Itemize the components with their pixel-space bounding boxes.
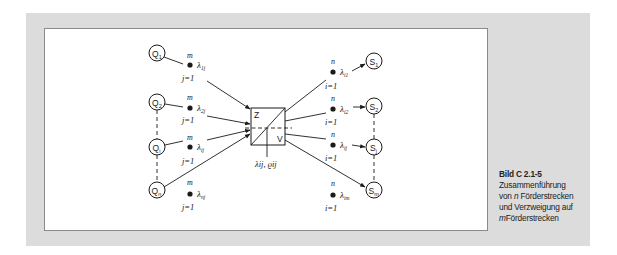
merge-label: Z	[254, 110, 259, 120]
caption-line-2: von n Förderstrecken	[499, 191, 589, 202]
source-node-qn: Qn	[149, 182, 165, 198]
svg-text:λij: λij	[196, 142, 204, 153]
svg-text:λij: λij	[339, 140, 347, 151]
source-to-sum-links	[164, 57, 183, 145]
svg-text:λnj: λnj	[196, 189, 206, 200]
sink-sum-2: n λi2 i=1	[325, 94, 348, 127]
sink-sum-m: n λim i=1	[325, 179, 349, 213]
caption-line-3: und Verzweigung auf	[499, 202, 589, 213]
svg-text:n: n	[331, 130, 335, 139]
figure-caption: Bild C 2.1-5 Zusammenführung von n Förde…	[499, 169, 589, 224]
caption-variable: m	[499, 213, 506, 223]
inflow-arrows	[164, 81, 250, 187]
svg-text:i=1: i=1	[325, 81, 337, 91]
sink-node-s2: S2	[366, 98, 382, 114]
caption-title: Bild C 2.1-5	[499, 169, 589, 180]
sink-node-s1: S1	[366, 53, 382, 69]
sink-sum-j: n λij i=1	[325, 130, 347, 163]
source-sum-n: m λnj j=1	[181, 178, 206, 212]
sink-node-sj: Sj	[366, 139, 382, 155]
svg-text:n: n	[331, 179, 335, 188]
caption-line-4: mFörderstrecken	[499, 213, 589, 224]
svg-text:m: m	[187, 133, 193, 142]
svg-text:i=1: i=1	[325, 203, 337, 213]
svg-text:λim: λim	[339, 190, 349, 201]
svg-text:λi2: λi2	[339, 104, 348, 115]
svg-text:m: m	[187, 51, 193, 60]
svg-text:i=1: i=1	[325, 117, 337, 127]
caption-text: Förderstrecken	[506, 213, 559, 223]
sink-sum-1: n λi1 i=1	[325, 57, 348, 91]
throughput-label: λij, ϱij	[254, 159, 277, 169]
svg-text:j=1: j=1	[181, 202, 194, 212]
source-node-q2: Q2	[149, 94, 165, 110]
svg-text:j=1: j=1	[181, 73, 194, 83]
sink-node-sm: Sm	[366, 182, 382, 198]
svg-text:λ1j: λ1j	[196, 60, 206, 71]
source-sum-1: m λ1j j=1	[181, 51, 206, 83]
sum-to-sink-arrows	[352, 64, 365, 147]
svg-text:m: m	[187, 93, 193, 102]
caption-text: von	[499, 191, 514, 201]
svg-text:n: n	[331, 94, 335, 103]
source-node-qi: Qi	[149, 139, 165, 155]
svg-text:λi1: λi1	[339, 67, 348, 78]
svg-text:λ2j: λ2j	[196, 103, 206, 114]
caption-text: Förderstrecken	[518, 191, 573, 201]
caption-line-1: Zusammenführung	[499, 180, 589, 191]
svg-text:m: m	[187, 178, 193, 187]
source-node-q1: Q1	[149, 45, 165, 61]
svg-text:n: n	[331, 57, 335, 66]
branch-label: V	[277, 134, 283, 144]
merge-branch-node: Z V λij, ϱij	[245, 108, 292, 169]
source-sum-i: m λij j=1	[181, 133, 204, 166]
svg-text:i=1: i=1	[325, 153, 337, 163]
svg-text:j=1: j=1	[181, 115, 194, 125]
svg-text:j=1: j=1	[181, 156, 194, 166]
outflow-lines	[285, 80, 365, 187]
source-sum-2: m λ2j j=1	[181, 93, 206, 125]
